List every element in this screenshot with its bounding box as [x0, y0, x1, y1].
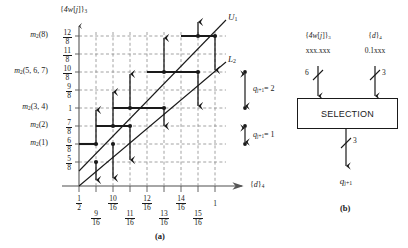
x-tick-14-16: 1416: [171, 195, 191, 211]
x-tick-11-16: 1116: [120, 210, 140, 226]
input-right-signal: {d}4: [355, 31, 395, 40]
x-tick-13-16: 1316: [154, 210, 174, 226]
input-left-format: xxx.xxx: [296, 46, 340, 55]
grid-horizontal: [79, 36, 226, 162]
m2-label-2: m2(2): [0, 120, 48, 129]
m2-label-1: m2(1): [0, 138, 48, 147]
y-tick-9-8: 98: [52, 83, 72, 99]
y-tick-11-8: 118: [52, 47, 72, 63]
y-tick-7-8: 78: [52, 119, 72, 135]
y-tick-6-8: 68: [52, 137, 72, 153]
line-label-l2: L2: [228, 54, 236, 64]
m2-label-34: m2(3, 4): [0, 102, 48, 111]
output-bus-width: 3: [353, 136, 357, 145]
m2-label-567: m2(5, 6, 7): [0, 66, 48, 75]
line-label-u1: U1: [228, 12, 237, 22]
x-axis-label: {d}4: [250, 180, 264, 189]
y-tick-1: 1: [52, 104, 72, 113]
figure-container: {4w[j]}3 {d}4 128 118 108 98 1 78 68 58 …: [0, 0, 408, 248]
line-u1: [79, 20, 226, 171]
x-tick-marks: [79, 186, 215, 192]
caption-b: (b): [340, 203, 350, 213]
y-tick-marks: [75, 36, 79, 162]
y-axis-label: {4w[j]}3: [60, 5, 87, 14]
x-tick-10-16: 1016: [103, 195, 123, 211]
y-tick-5-8: 58: [52, 155, 72, 171]
x-tick-1-2: 12: [69, 195, 89, 211]
input-left-signal: {4w[j]}3: [296, 31, 340, 40]
input-right-format: 0.1xxx: [353, 46, 397, 55]
selection-block[interactable]: SELECTION: [297, 98, 398, 129]
line-l2: [79, 62, 226, 186]
x-tick-1: 1: [205, 199, 225, 208]
y-tick-10-8: 108: [52, 65, 72, 81]
input-left-bus-width: 6: [305, 68, 309, 77]
q-annotation-2: qj+1= 2: [253, 84, 275, 93]
selection-block-label: SELECTION: [321, 109, 374, 119]
y-tick-12-8: 128: [52, 29, 72, 45]
output-signal: qj+1: [326, 176, 366, 186]
input-right-bus-width: 3: [382, 68, 386, 77]
m2-label-8: m2(8): [0, 30, 48, 39]
q-annotation-1: qj+1= 1: [253, 130, 275, 139]
x-tick-15-16: 1516: [188, 210, 208, 226]
x-tick-9-16: 916: [86, 210, 106, 226]
q-range-indicators: [243, 70, 247, 146]
caption-a: (a): [155, 231, 165, 241]
x-tick-12-16: 1216: [137, 195, 157, 211]
up-arrows: [94, 22, 200, 146]
